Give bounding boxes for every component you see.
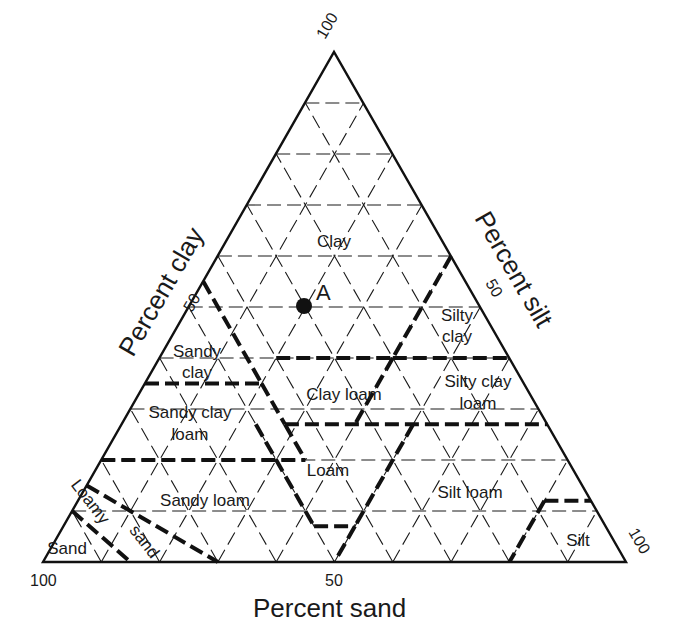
region-label-silt-loam: Silt loam (437, 483, 502, 502)
region-label-sandy-loam: Sandy loam (160, 491, 250, 510)
soil-texture-triangle: ClaySandyclaySiltyclaySandy clayloamClay… (0, 0, 681, 643)
boundary-8 (285, 424, 306, 460)
silt-tick-100: 100 (625, 525, 653, 557)
clay-tick-50: 50 (180, 290, 204, 314)
region-label-silty-clay-loam: Silty clay (444, 372, 512, 391)
sand-tick-50: 50 (325, 572, 343, 589)
region-label-silt: Silt (566, 531, 590, 550)
region-label-silty-clay: Silty (441, 306, 474, 325)
region-label-sandy-clay: Sandy (173, 342, 222, 361)
region-label-silty-clay: clay (442, 327, 473, 346)
region-label-sand: Sand (47, 539, 87, 558)
region-label-silty-clay-loam: loam (460, 394, 497, 413)
clay-tick-100: 100 (313, 10, 341, 42)
region-label-loam: Loam (307, 461, 350, 480)
silt-tick-50: 50 (482, 276, 506, 300)
data-point-label: A (316, 280, 331, 305)
silt-axis-title: Percent silt (469, 206, 560, 333)
region-label-clay-loam: Clay loam (306, 385, 382, 404)
region-label-sandy-clay-loam: loam (172, 425, 209, 444)
clay-axis-title: Percent clay (112, 222, 210, 361)
data-point-marker (296, 298, 312, 314)
region-label-sandy-clay: clay (182, 363, 213, 382)
region-label-loamy-sand: Loamy (67, 476, 114, 528)
grid-line-sand-60 (160, 358, 277, 562)
region-label-clay: Clay (317, 232, 352, 251)
data-point-a: A (296, 280, 331, 314)
boundary-6 (262, 384, 285, 425)
sand-tick-100: 100 (30, 572, 57, 589)
sand-axis-title: Percent sand (253, 593, 406, 623)
region-label-sandy-clay-loam: Sandy clay (148, 403, 232, 422)
grid-line-sand-30 (247, 205, 451, 562)
